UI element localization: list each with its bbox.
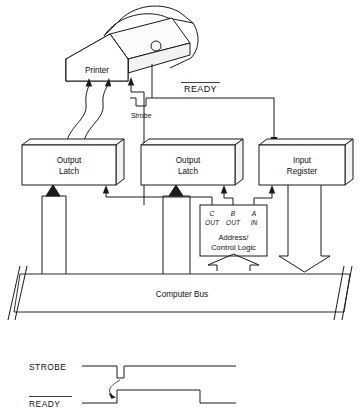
- address-control-logic-line1: Address/: [219, 233, 250, 242]
- block-output-latch-mid[interactable]: Output Latch: [141, 139, 243, 185]
- input-register-bus-lines: [279, 185, 330, 272]
- figure-canvas: Printer READY Strobe: [0, 0, 362, 419]
- output-latch-left-line1: Output: [57, 156, 82, 165]
- port-b-dir: OUT: [226, 219, 241, 226]
- ready-label: READY: [184, 84, 217, 94]
- printer-interface-diagram: Printer READY Strobe: [0, 0, 362, 419]
- block-address-control-logic[interactable]: C OUT B OUT A IN Address/ Control Logic: [200, 205, 267, 256]
- printer-data-cable: [66, 78, 111, 146]
- input-register-line2: Register: [287, 167, 318, 176]
- b-out-to-mid-latch: [221, 185, 233, 205]
- a-in-to-input-register: [254, 185, 275, 205]
- port-b-name: B: [231, 210, 236, 217]
- block-input-register[interactable]: Input Register: [259, 139, 353, 185]
- negative-pulse-icon: [130, 98, 152, 106]
- computer-bus[interactable]: Computer Bus: [8, 266, 352, 320]
- causality-arrow: [110, 380, 120, 395]
- output-latch-mid-line2: Latch: [178, 167, 198, 176]
- acl-bus-connection: [208, 254, 259, 271]
- printer-label: Printer: [85, 66, 109, 75]
- input-register-line1: Input: [293, 156, 312, 165]
- port-c-name: C: [210, 210, 215, 217]
- output-latch-mid-line1: Output: [176, 156, 201, 165]
- output-latch-left-line2: Latch: [59, 167, 79, 176]
- block-output-latch-left[interactable]: Output Latch: [22, 139, 124, 185]
- port-c-dir: OUT: [205, 219, 220, 226]
- port-a-dir: IN: [251, 219, 258, 226]
- left-latch-bus-lines: [42, 185, 66, 274]
- ready-signal-path: [152, 64, 278, 146]
- c-out-to-left-latch: [103, 185, 212, 205]
- strobe-label: Strobe: [131, 112, 152, 119]
- mid-latch-bus-lines: [163, 185, 190, 274]
- address-control-logic-line2: Control Logic: [211, 243, 256, 252]
- strobe-waveform: [82, 366, 236, 378]
- computer-bus-label: Computer Bus: [156, 290, 208, 299]
- timing-diagram: STROBE READY: [29, 362, 236, 409]
- timing-row-1-label: READY: [29, 399, 60, 409]
- printer-illustration: Printer: [66, 6, 198, 81]
- ready-waveform: [82, 390, 236, 403]
- timing-row-0-label: STROBE: [29, 362, 66, 372]
- port-a-name: A: [251, 210, 257, 217]
